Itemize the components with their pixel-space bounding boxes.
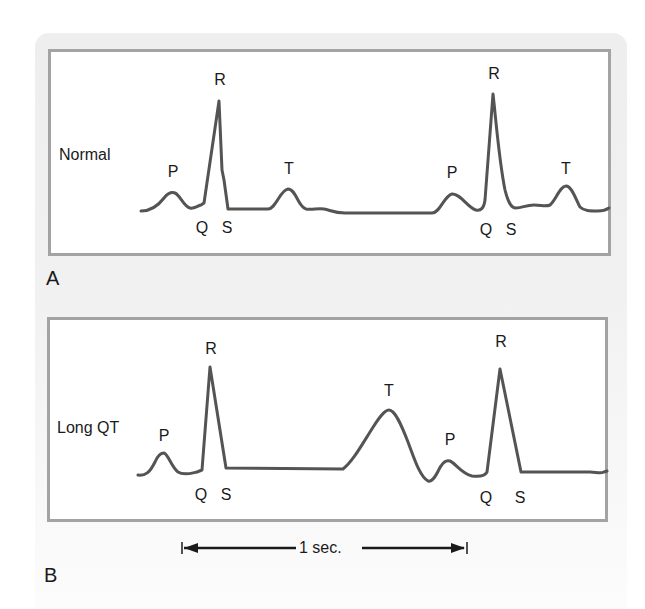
wave-label-t: T — [561, 161, 571, 177]
wave-label-r: R — [495, 334, 507, 350]
wave-label-r: R — [488, 66, 500, 82]
wave-label-q: Q — [195, 487, 207, 503]
rhythm-label-normal: Normal — [59, 147, 111, 163]
wave-label-t: T — [384, 383, 394, 399]
wave-label-q: Q — [196, 220, 208, 236]
wave-label-p: P — [159, 428, 170, 444]
wave-label-r: R — [205, 341, 217, 357]
wave-label-p: P — [447, 165, 458, 181]
wave-label-p: P — [168, 164, 179, 180]
time-scale-label: 1 sec. — [299, 540, 342, 556]
ecg-traces — [0, 0, 645, 609]
ecg-trace-normal — [141, 94, 609, 213]
wave-label-t: T — [284, 161, 294, 177]
arrow-left-icon — [184, 543, 198, 553]
panel-letter-b: B — [44, 564, 57, 587]
wave-label-s: S — [222, 220, 233, 236]
wave-label-s: S — [515, 490, 526, 506]
wave-label-q: Q — [480, 222, 492, 238]
wave-label-p: P — [445, 432, 456, 448]
wave-label-q: Q — [480, 490, 492, 506]
wave-label-r: R — [214, 72, 226, 88]
rhythm-label-long-qt: Long QT — [57, 420, 119, 436]
wave-label-s: S — [506, 222, 517, 238]
ecg-trace-long-qt — [138, 367, 607, 481]
panel-letter-a: A — [46, 267, 59, 290]
arrow-right-icon — [451, 543, 465, 553]
wave-label-s: S — [221, 487, 232, 503]
